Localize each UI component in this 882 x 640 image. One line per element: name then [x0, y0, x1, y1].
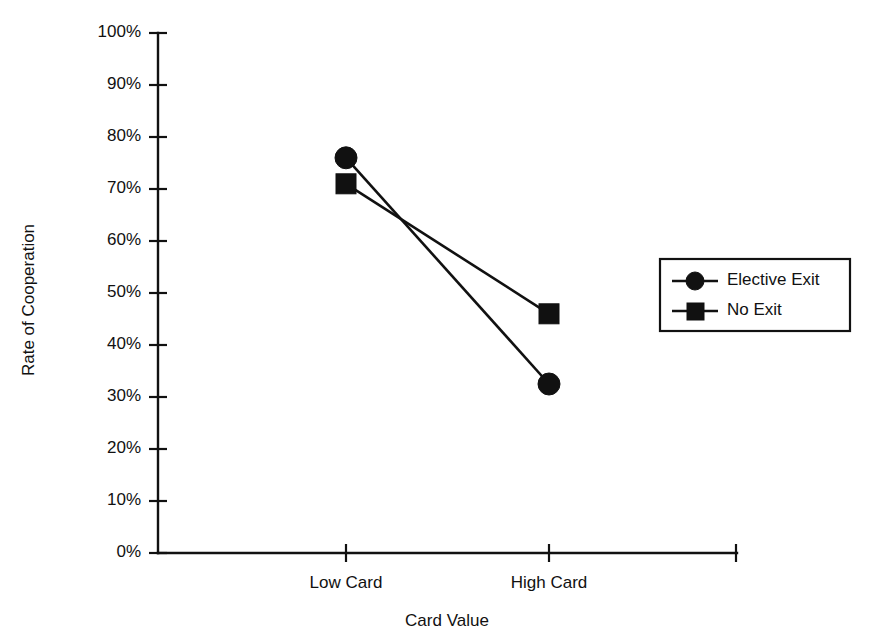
data-point-no-exit-high-card — [539, 304, 559, 324]
legend-label-elective-exit: Elective Exit — [727, 270, 820, 289]
square-marker-icon — [687, 303, 704, 320]
y-tick-label-20: 20% — [107, 438, 141, 457]
series-no-exit — [336, 174, 559, 324]
series-elective-exit — [335, 147, 560, 395]
y-tick-label-0: 0% — [116, 542, 141, 561]
data-point-elective-exit-low-card — [335, 147, 357, 169]
legend-label-no-exit: No Exit — [727, 300, 782, 319]
x-tick-label-low-card: Low Card — [310, 573, 383, 592]
y-tick-label-100: 100% — [98, 22, 141, 41]
y-tick-label-10: 10% — [107, 490, 141, 509]
y-tick-label-90: 90% — [107, 74, 141, 93]
y-tick-label-50: 50% — [107, 282, 141, 301]
x-tick-label-high-card: High Card — [511, 573, 588, 592]
legend-entry-elective-exit[interactable]: Elective Exit — [672, 270, 820, 290]
data-point-elective-exit-high-card — [538, 373, 560, 395]
y-tick-label-60: 60% — [107, 230, 141, 249]
x-axis-title: Card Value — [405, 611, 489, 630]
chart-figure: 100% 90% 80% 70% 60% 50% 40% 30% 20% 10%… — [0, 0, 882, 640]
line-chart-canvas: 100% 90% 80% 70% 60% 50% 40% 30% 20% 10%… — [0, 0, 882, 640]
y-tick-label-30: 30% — [107, 386, 141, 405]
y-axis-title: Rate of Cooperation — [19, 224, 38, 376]
legend-entry-no-exit[interactable]: No Exit — [672, 300, 782, 320]
data-point-no-exit-low-card — [336, 174, 356, 194]
series-elective-exit-segment — [346, 158, 549, 384]
y-tick-label-70: 70% — [107, 178, 141, 197]
y-tick-label-80: 80% — [107, 126, 141, 145]
series-no-exit-segment — [346, 184, 549, 314]
y-tick-label-40: 40% — [107, 334, 141, 353]
chart-legend: Elective Exit No Exit — [660, 259, 850, 331]
circle-marker-icon — [686, 272, 704, 290]
